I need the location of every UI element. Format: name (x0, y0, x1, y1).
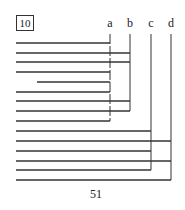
page-number: 51 (90, 187, 102, 202)
bracket-diagram (0, 0, 185, 210)
